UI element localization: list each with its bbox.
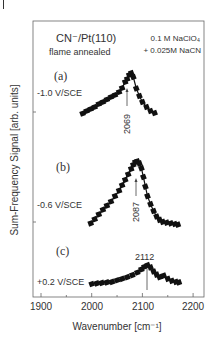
data-point [142, 183, 149, 190]
condition-line-1: 0.1 M NaClO₄ [151, 34, 201, 43]
condition-line-2: + 0.025M NaCN [143, 46, 201, 55]
panel-label-c: (c) [56, 244, 69, 258]
peak-label-b: 2087 [131, 202, 141, 222]
data-point [104, 279, 111, 286]
data-point [98, 280, 105, 287]
series-c-spectrum [88, 262, 182, 287]
data-point [144, 193, 151, 200]
x-tick-label-2000: 2000 [81, 301, 104, 312]
peak-label-a: 2069 [122, 114, 132, 134]
peak-arrow-head-a [126, 88, 129, 92]
panel-label-b: (b) [56, 160, 70, 174]
x-tick-label-1900: 1900 [30, 301, 53, 312]
data-point [133, 85, 140, 92]
data-point [122, 176, 129, 183]
potential-label-b: -0.6 V/SCE [37, 200, 82, 210]
title-line-2: flame annealed [49, 47, 111, 57]
x-axis-ticks [41, 293, 193, 297]
data-point [150, 208, 157, 215]
y-axis-label: Sum-Frequency Signal [arb. units] [9, 84, 20, 235]
data-point [119, 182, 126, 189]
series-a-spectrum [79, 70, 158, 117]
x-tick-label-2200: 2200 [182, 301, 205, 312]
x-tick-label-2100: 2100 [132, 301, 155, 312]
potential-label-c: +0.2 V/SCE [37, 277, 84, 287]
potential-label-a: -1.0 V/SCE [37, 88, 82, 98]
panel-label-a: (a) [54, 69, 67, 83]
title-line-1: CN⁻/Pt(110) [56, 32, 116, 44]
x-axis-label: Wavenumber [cm⁻¹] [72, 321, 161, 332]
peak-arrow-head-b [135, 178, 138, 182]
data-point [125, 171, 132, 178]
peak-label-c: 2112 [135, 252, 154, 262]
data-point [147, 201, 154, 208]
chart-svg: CN⁻/Pt(110) flame annealed 0.1 M NaClO₄ … [0, 0, 216, 345]
data-point [136, 93, 143, 100]
data-point [140, 174, 147, 181]
